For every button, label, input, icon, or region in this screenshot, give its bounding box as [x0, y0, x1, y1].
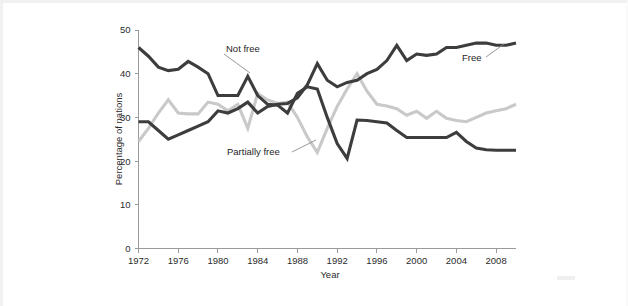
series-line-not-free — [139, 47, 517, 158]
y-tick-label: 40 — [120, 68, 131, 79]
x-tick-label: 1992 — [327, 255, 348, 266]
x-tick-label: 1988 — [287, 255, 308, 266]
series-label-not-free: Not free — [226, 43, 260, 54]
y-tick-label: 10 — [120, 199, 131, 210]
x-axis-title: Year — [320, 269, 339, 280]
not-free-leader-line — [224, 54, 250, 73]
x-tick-label: 2008 — [486, 255, 507, 266]
x-tick-label: 1976 — [168, 255, 189, 266]
y-axis-title: Percentage of nations — [113, 93, 124, 186]
chart-svg: 01020304050 1972197619801984198819921996… — [0, 0, 628, 306]
x-axis-ticks: 1972197619801984198819921996200020042008 — [128, 249, 507, 266]
line-chart-figure: 01020304050 1972197619801984198819921996… — [0, 0, 628, 306]
y-tick-label: 0 — [125, 243, 130, 254]
series-label-partially-free: Partially free — [227, 146, 280, 157]
screenshot-root: 01020304050 1972197619801984198819921996… — [0, 0, 628, 306]
x-tick-label: 1972 — [128, 255, 149, 266]
series-group — [139, 43, 517, 158]
series-label-free: Free — [462, 52, 482, 63]
y-tick-label: 50 — [120, 24, 131, 35]
x-tick-label: 1980 — [207, 255, 228, 266]
x-tick-label: 1984 — [247, 255, 268, 266]
scan-artifact — [557, 276, 575, 280]
x-tick-label: 2004 — [446, 255, 467, 266]
x-tick-label: 2000 — [406, 255, 427, 266]
x-tick-label: 1996 — [366, 255, 387, 266]
